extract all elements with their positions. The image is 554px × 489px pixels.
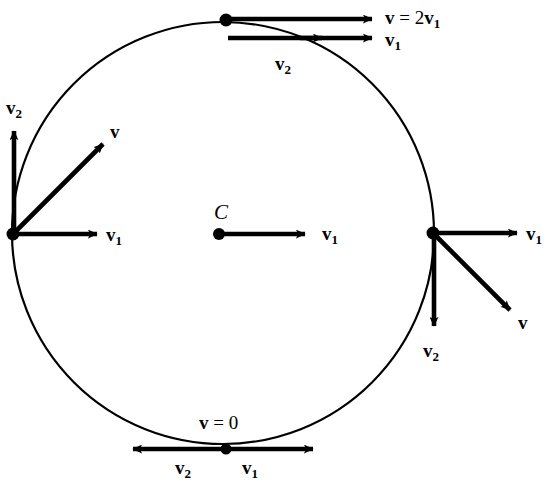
right-v-v: v <box>518 312 528 333</box>
left-v2-v: v <box>6 97 16 118</box>
bottom-v2-label: v2 <box>175 458 191 480</box>
right-v2-label: v2 <box>423 341 439 363</box>
center-v1-subscript: 1 <box>332 232 339 247</box>
bottom-v1-v: v <box>242 457 252 478</box>
top-resultant-label: v = 2v1 <box>385 8 440 30</box>
bottom-v1-label: v1 <box>242 458 258 480</box>
right-v2-subscript: 2 <box>433 349 440 364</box>
bottom-v1-subscript: 1 <box>252 466 259 481</box>
top-v1-subscript: 1 <box>395 38 402 53</box>
top-resultant-term: v <box>424 7 434 28</box>
left-v1-label: v1 <box>106 225 122 247</box>
left-v-label: v <box>110 122 120 141</box>
left-v2-subscript: 2 <box>16 106 23 121</box>
bottom-point-dot <box>221 444 232 455</box>
left-v-v: v <box>110 121 120 142</box>
left-v-arrow <box>15 144 103 232</box>
bottom-v2-subscript: 2 <box>185 466 192 481</box>
bottom-resultant-v: v <box>199 412 209 433</box>
left-v1-v: v <box>106 224 116 245</box>
top-v2-label: v2 <box>275 54 291 76</box>
bottom-resultant-equals: = 0 <box>209 412 239 433</box>
bottom-v2-v: v <box>175 457 185 478</box>
rolling-wheel-velocity-diagram: v = 2v1 v1 v2 v2 v v1 C v1 v1 v v2 v = 0 <box>0 0 554 489</box>
top-resultant-subscript: 1 <box>434 16 441 31</box>
left-v1-subscript: 1 <box>116 233 123 248</box>
center-v1-label: v1 <box>322 224 338 246</box>
right-v2-v: v <box>423 340 433 361</box>
center-label-c: C <box>214 202 228 223</box>
right-v1-label: v1 <box>526 224 542 246</box>
right-v-label: v <box>518 313 528 332</box>
right-v1-subscript: 1 <box>536 232 543 247</box>
right-v-arrow <box>435 235 510 310</box>
center-v1-v: v <box>322 223 332 244</box>
top-v2-subscript: 2 <box>285 62 292 77</box>
bottom-resultant-label: v = 0 <box>199 413 238 432</box>
left-v2-label: v2 <box>6 98 22 120</box>
top-v1-v: v <box>385 29 395 50</box>
top-resultant-equals: = 2 <box>395 7 425 28</box>
right-v1-v: v <box>526 223 536 244</box>
top-v1-label: v1 <box>385 30 401 52</box>
top-resultant-v: v <box>385 7 395 28</box>
top-v2-v: v <box>275 53 285 74</box>
